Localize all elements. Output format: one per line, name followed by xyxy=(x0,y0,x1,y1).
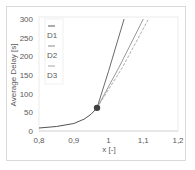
y-tick-label: 50 xyxy=(24,108,33,117)
x-axis-title: x [-] xyxy=(102,145,115,154)
x-tick-label: 1 xyxy=(106,136,111,145)
series-line-base xyxy=(39,108,97,128)
legend-label-d1: D1 xyxy=(47,31,58,40)
y-tick-label: 100 xyxy=(20,90,34,99)
legend-label-d3: D3 xyxy=(47,71,58,80)
y-tick-label: 150 xyxy=(20,71,34,80)
x-axis-ticks: 0,80,911,11,2 xyxy=(33,131,184,145)
y-axis-title: Average Delay [s] xyxy=(9,44,18,107)
y-tick-label: 200 xyxy=(20,52,34,61)
chart-svg: 050100150200250300 0,80,911,11,2 D1D2D3 … xyxy=(0,0,195,170)
legend: D1D2D3 xyxy=(45,19,63,84)
x-tick-label: 0,8 xyxy=(33,136,45,145)
data-marker xyxy=(94,105,100,111)
x-tick-label: 1,2 xyxy=(172,136,184,145)
x-tick-label: 0,9 xyxy=(68,136,80,145)
x-tick-label: 1,1 xyxy=(138,136,150,145)
y-axis-ticks: 050100150200250300 xyxy=(20,15,34,136)
y-tick-label: 250 xyxy=(20,34,34,43)
y-tick-label: 300 xyxy=(20,15,34,24)
legend-label-d2: D2 xyxy=(47,51,58,60)
series-line-d1 xyxy=(97,19,124,108)
y-tick-label: 0 xyxy=(29,127,34,136)
